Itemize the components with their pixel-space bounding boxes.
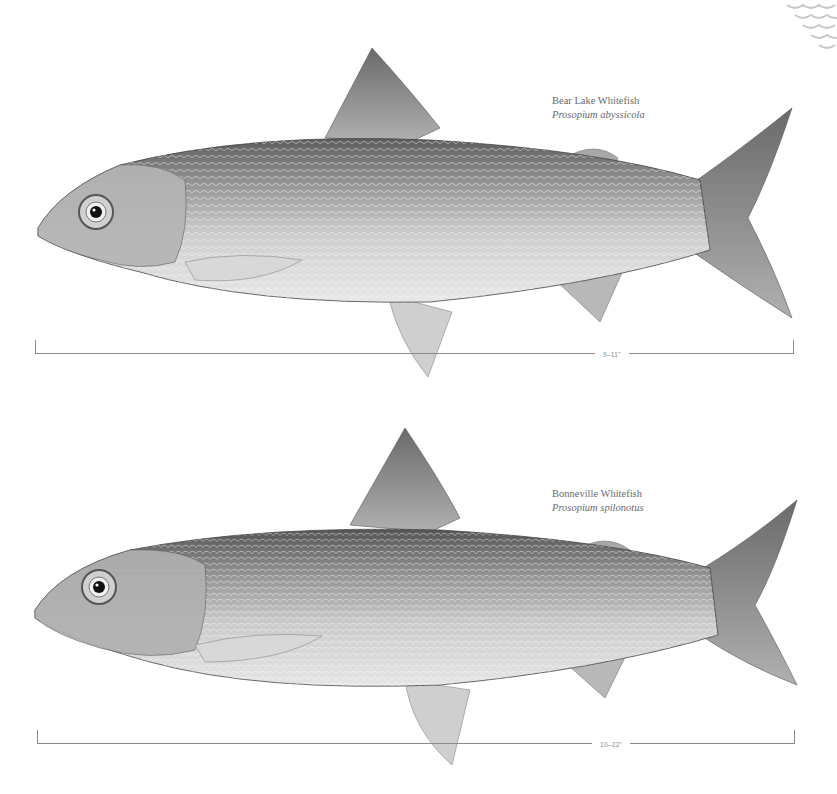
plate-bear-lake-whitefish: Bear Lake Whitefish Prosopium abyssicola… <box>0 0 837 400</box>
plate-bonneville-whitefish: Bonneville Whitefish Prosopium spilonotu… <box>0 400 837 794</box>
scale-tick-left <box>35 340 36 354</box>
size-scale-bar: 9–11" <box>35 340 794 354</box>
scale-tick-right <box>793 340 794 354</box>
species-label: Bonneville Whitefish Prosopium spilonotu… <box>552 487 644 515</box>
scale-tick-right <box>794 730 795 744</box>
common-name: Bonneville Whitefish <box>552 487 644 501</box>
size-scale-bar: 10–22" <box>37 730 795 744</box>
caudal-fin <box>690 108 792 318</box>
species-label: Bear Lake Whitefish Prosopium abyssicola <box>552 94 645 122</box>
scientific-name: Prosopium abyssicola <box>552 108 645 122</box>
common-name: Bear Lake Whitefish <box>552 94 645 108</box>
scale-tick-left <box>37 730 38 744</box>
dorsal-fin <box>325 48 440 142</box>
scientific-name: Prosopium spilonotus <box>552 501 644 515</box>
size-range-label: 10–22" <box>592 741 630 748</box>
size-range-label: 9–11" <box>595 351 629 358</box>
scale-line <box>37 743 795 744</box>
scale-line <box>35 353 794 354</box>
